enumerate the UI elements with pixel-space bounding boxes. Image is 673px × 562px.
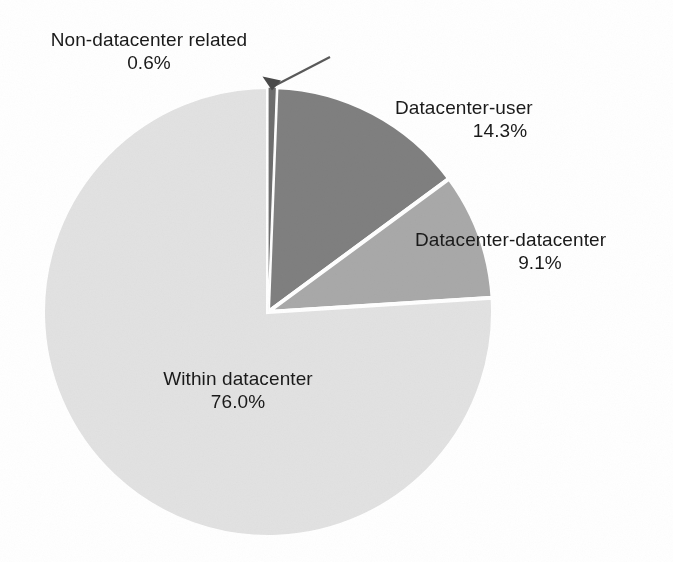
slice-label-name: Datacenter-user: [395, 97, 533, 118]
slice-label-datacenter-user: Datacenter-user 14.3%: [395, 96, 605, 142]
pie-slices: [43, 87, 493, 537]
slice-label-name: Within datacenter: [163, 368, 313, 389]
slice-label-value: 76.0%: [118, 390, 358, 413]
slice-label-value: 9.1%: [415, 251, 665, 274]
slice-label-name: Non-datacenter related: [51, 29, 248, 50]
slice-label-value: 0.6%: [24, 51, 274, 74]
slice-label-within-datacenter: Within datacenter 76.0%: [118, 367, 358, 413]
slice-label-non-datacenter-related: Non-datacenter related 0.6%: [24, 28, 274, 74]
slice-label-name: Datacenter-datacenter: [415, 229, 606, 250]
slice-label-datacenter-datacenter: Datacenter-datacenter 9.1%: [415, 228, 665, 274]
slice-label-value: 14.3%: [395, 119, 605, 142]
pie-chart-figure: Non-datacenter related 0.6% Datacenter-u…: [0, 0, 673, 562]
pie-chart-svg: [0, 0, 673, 562]
